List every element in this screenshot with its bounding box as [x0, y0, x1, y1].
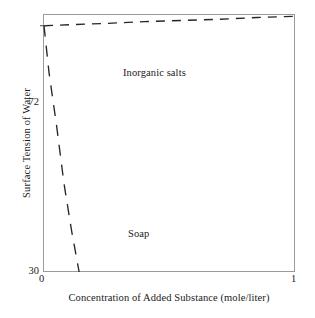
series-label-soap: Soap [128, 228, 149, 239]
surface-tension-chart: Surface Tension of Water Concentration o… [0, 0, 315, 318]
y-axis-title: Surface Tension of Water [18, 14, 36, 272]
x-tick-label-0: 0 [39, 273, 44, 284]
series-label-inorganic-salts: Inorganic salts [123, 67, 186, 78]
plot-area-frame [43, 14, 295, 272]
y-tick-label-30: 30 [29, 265, 40, 276]
x-tick-label-1: 1 [291, 273, 296, 284]
x-axis-title: Concentration of Added Substance (mole/l… [43, 292, 295, 303]
y-tick-label-72: 72 [29, 96, 40, 107]
